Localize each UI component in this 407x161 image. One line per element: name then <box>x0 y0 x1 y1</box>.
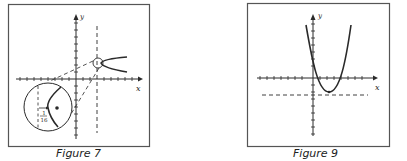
figure-7-y-label: y <box>79 13 85 21</box>
figure-9-y-label: y <box>317 12 323 20</box>
figure-7-caption: Figure 7 <box>56 147 101 160</box>
connector-dashed-line <box>71 68 99 114</box>
parabola-curve <box>101 57 127 72</box>
figure-9-caption: Figure 9 <box>293 147 338 160</box>
figure-7-frame <box>9 5 150 147</box>
y-axis-arrow-icon <box>311 14 316 20</box>
y-axis-arrow-icon <box>74 14 79 20</box>
figure-7-x-label: x <box>136 84 141 93</box>
inset-fraction-numerator: 1 <box>42 110 46 116</box>
figure-9-x-label: x <box>375 83 380 92</box>
vertex-point <box>328 91 331 94</box>
focus-point <box>55 106 59 110</box>
connector-dashed-line <box>50 61 93 81</box>
figures-canvas: 1 16 y x y x <box>0 0 407 161</box>
figure-9-frame <box>248 4 390 147</box>
x-axis-arrow-icon <box>138 77 143 82</box>
x-axis-arrow-icon <box>373 76 378 81</box>
figure-7 <box>9 5 150 147</box>
inset-fraction-denominator: 16 <box>41 117 48 123</box>
figure-9 <box>248 4 390 147</box>
